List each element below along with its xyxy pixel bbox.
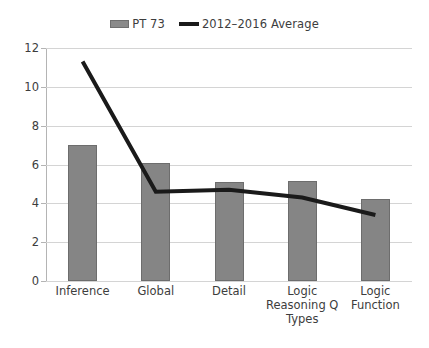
- gridline: [46, 48, 412, 49]
- y-tick-label: 10: [3, 80, 39, 94]
- bar[interactable]: [288, 181, 317, 281]
- line-swatch-icon: [179, 22, 199, 26]
- y-tick-label: 0: [3, 274, 39, 288]
- x-tick-label: LogicReasoning QTypes: [266, 284, 339, 326]
- x-tick-label: Detail: [192, 284, 265, 298]
- bar[interactable]: [361, 199, 390, 281]
- combo-bar-line-chart: PT 73 2012–2016 Average 024681012 Infere…: [0, 0, 429, 348]
- bar[interactable]: [215, 182, 244, 281]
- y-tick-mark: [41, 203, 46, 204]
- gridline: [46, 165, 412, 166]
- y-tick-mark: [41, 165, 46, 166]
- y-tick-label: 2: [3, 235, 39, 249]
- y-tick-mark: [41, 126, 46, 127]
- x-tick-label: LogicFunction: [339, 284, 412, 312]
- x-tick-label-line: Detail: [192, 284, 265, 298]
- y-tick-mark: [41, 242, 46, 243]
- y-tick-mark: [41, 87, 46, 88]
- chart-legend: PT 73 2012–2016 Average: [0, 14, 429, 34]
- legend-label-average: 2012–2016 Average: [202, 17, 319, 31]
- y-tick-mark: [41, 281, 46, 282]
- bar[interactable]: [68, 145, 97, 281]
- x-tick-label-line: Logic: [339, 284, 412, 298]
- x-tick-label: Global: [119, 284, 192, 298]
- x-axis-labels: InferenceGlobalDetailLogicReasoning QTyp…: [46, 284, 412, 346]
- x-tick-label-line: Reasoning Q: [266, 298, 339, 312]
- y-tick-label: 4: [3, 196, 39, 210]
- bar-swatch-icon: [110, 20, 129, 28]
- legend-label-pt-73: PT 73: [132, 17, 165, 31]
- gridline: [46, 281, 412, 282]
- plot-area: [46, 48, 412, 281]
- gridline: [46, 87, 412, 88]
- legend-entry-average[interactable]: 2012–2016 Average: [179, 17, 319, 31]
- x-tick-label-line: Global: [119, 284, 192, 298]
- gridline: [46, 126, 412, 127]
- y-tick-label: 12: [3, 41, 39, 55]
- y-axis-labels: 024681012: [0, 0, 39, 348]
- x-tick-label-line: Inference: [46, 284, 119, 298]
- y-tick-mark: [41, 48, 46, 49]
- x-tick-label-line: Function: [339, 298, 412, 312]
- legend-entry-pt-73[interactable]: PT 73: [110, 17, 165, 31]
- x-tick-label: Inference: [46, 284, 119, 298]
- x-tick-label-line: Logic: [266, 284, 339, 298]
- bar[interactable]: [141, 163, 170, 281]
- x-tick-label-line: Types: [266, 312, 339, 326]
- y-tick-label: 8: [3, 119, 39, 133]
- y-tick-label: 6: [3, 158, 39, 172]
